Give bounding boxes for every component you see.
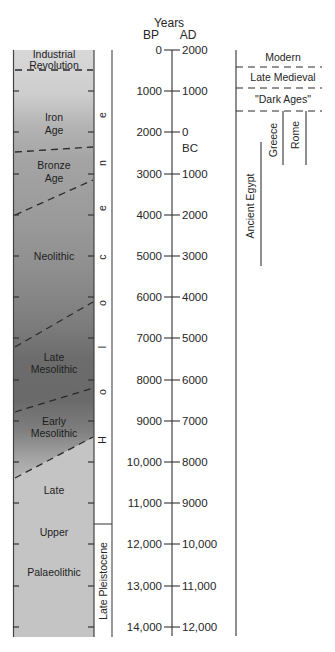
period-modern: Modern	[238, 51, 328, 63]
period-greece: Greece	[267, 123, 279, 157]
bc-tick-label: 1000	[182, 167, 242, 181]
bc-tick-label: 7000	[182, 414, 242, 428]
holocene-letter: e	[96, 112, 108, 118]
period-dark-ages: "Dark Ages"	[238, 93, 328, 105]
bp-tick-label: 10,000	[96, 455, 162, 469]
period-label: Neolithic	[34, 250, 74, 263]
period-label: Upper	[40, 526, 69, 539]
period-rome: Rome	[289, 121, 301, 149]
period-label: Early Mesolithic	[25, 415, 83, 439]
period-label: Late	[44, 484, 64, 497]
period-label: Bronze Age	[34, 159, 74, 185]
bc-tick-label: 8000	[182, 455, 242, 469]
bp-tick-label: 1000	[96, 84, 162, 98]
period-label: Industrial Revolution	[23, 49, 85, 71]
holocene-letter: o	[96, 300, 108, 306]
bp-tick-label: 9000	[96, 414, 162, 428]
bc-tick-label: 3000	[182, 249, 242, 263]
holocene-letter: n	[96, 160, 108, 166]
bp-tick-label: 14,000	[96, 620, 162, 634]
ad-tick-label: 0	[182, 125, 242, 139]
holocene-letter: c	[96, 254, 108, 259]
period-iron-age: Iron Age	[15, 111, 93, 137]
holocene-letter: l	[96, 346, 108, 348]
late-pleistocene-label: Late Pleistocene	[97, 542, 109, 620]
bc-tick-label: 5000	[182, 331, 242, 345]
period-upper: Upper	[15, 526, 93, 539]
bp-header: BP	[136, 29, 166, 41]
period-late-medieval: Late Medieval	[238, 71, 328, 83]
bc-tick-label: 10,000	[182, 537, 242, 551]
bc-tick-label: 6000	[182, 373, 242, 387]
bc-label: BC	[182, 141, 242, 155]
period-late: Late	[15, 484, 93, 497]
bc-tick-label: 9000	[182, 496, 242, 510]
bp-tick-label: 0	[96, 43, 162, 57]
bp-tick-label: 8000	[96, 373, 162, 387]
bp-tick-label: 2000	[96, 125, 162, 139]
period-palaeolithic: Palaeolithic	[15, 566, 93, 579]
ad-tick-label: 2000	[182, 43, 242, 57]
period-late-mesolithic: Late Mesolithic	[15, 351, 93, 375]
bp-tick-label: 11,000	[96, 496, 162, 510]
period-neolithic: Neolithic	[15, 250, 93, 263]
period-ancient-egypt: Ancient Egypt	[244, 174, 256, 239]
bp-tick-label: 7000	[96, 331, 162, 345]
ad-header: AD	[173, 29, 203, 41]
bc-tick-label: 11,000	[182, 579, 242, 593]
bc-tick-label: 12,000	[182, 620, 242, 634]
period-early-mesolithic: Early Mesolithic	[15, 415, 93, 439]
period-label: Palaeolithic	[27, 566, 81, 579]
period-bronze-age: Bronze Age	[15, 159, 93, 185]
period-label: Late Mesolithic	[25, 351, 83, 375]
bc-tick-label: 4000	[182, 290, 242, 304]
ad-tick-label: 1000	[182, 84, 242, 98]
holocene-letter: o	[96, 389, 108, 395]
cultural-period-column	[13, 50, 94, 637]
bp-tick-label: 3000	[96, 167, 162, 181]
period-label: Iron Age	[36, 111, 72, 137]
years-axis	[164, 50, 180, 636]
holocene-letter: H	[96, 436, 108, 444]
historical-column	[236, 50, 322, 636]
period-industrial-revolution: Industrial Revolution	[15, 49, 93, 71]
bc-tick-label: 2000	[182, 208, 242, 222]
holocene-letter: e	[96, 205, 108, 211]
